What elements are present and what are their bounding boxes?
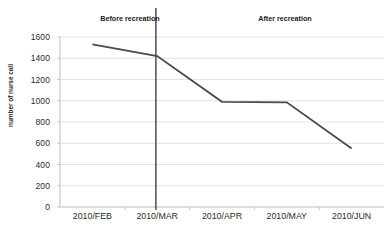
gridlines [60, 37, 384, 207]
line-chart-figure: number of nurse call 1600140012001000800… [0, 0, 392, 242]
data-series-line [92, 44, 351, 148]
axis-tick-marks [57, 37, 319, 210]
plot-area [0, 0, 392, 242]
annotation-after-recreation: After recreation [232, 14, 338, 23]
annotation-before-recreation: Before recreation [78, 14, 182, 23]
